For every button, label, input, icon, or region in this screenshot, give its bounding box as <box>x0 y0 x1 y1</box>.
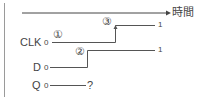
q-initial-value: 0 <box>44 82 48 90</box>
q-name: Q <box>32 80 41 91</box>
d-initial-value: 0 <box>44 64 48 72</box>
clk-waveform <box>52 26 155 43</box>
q-unknown-value: ? <box>87 80 93 91</box>
time-axis-label: 時間 <box>172 7 194 18</box>
marker-3: ③ <box>102 16 112 27</box>
time-axis-arrow-icon <box>166 11 171 16</box>
clk-name: CLK <box>20 37 41 48</box>
clk-initial-value: 0 <box>44 39 48 47</box>
marker-1: ① <box>53 29 63 40</box>
d-waveform <box>50 51 155 68</box>
d-final-value: 1 <box>158 46 162 54</box>
marker-2: ② <box>75 46 85 57</box>
d-name: D <box>33 62 41 73</box>
clk-final-value: 1 <box>158 21 162 29</box>
